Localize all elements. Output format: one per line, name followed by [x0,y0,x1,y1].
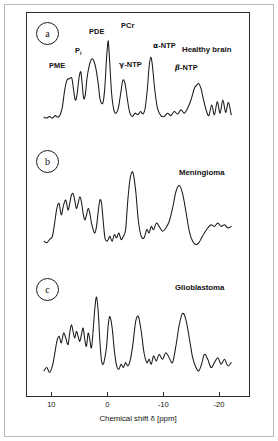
x-axis-tick [163,392,164,396]
x-axis-label: Chemical shift δ [ppm] [26,414,250,423]
figure-container: a PME Pi PDE PCr γ-NTP α-NTP β-NTP Healt… [0,0,278,441]
condition-label-b: Meningioma [179,168,224,177]
x-axis-tick [107,392,108,396]
panel-b: b Meningioma [27,141,251,269]
peak-label-beta-ntp: β-NTP [175,63,198,72]
x-axis-tick [51,392,52,396]
peak-label-alpha-ntp: α-NTP [153,41,176,50]
peak-label-gamma-ntp: γ-NTP [119,60,142,69]
plot-area: a PME Pi PDE PCr γ-NTP α-NTP β-NTP Healt… [26,12,250,396]
panel-tag-b: b [36,150,59,173]
panel-a: a PME Pi PDE PCr γ-NTP α-NTP β-NTP Healt… [27,13,251,141]
peak-label-pi: Pi [75,46,82,56]
condition-label-a: Healthy brain [182,45,231,54]
condition-label-c: Glioblastoma [175,283,224,292]
peak-label-pde: PDE [89,27,105,36]
spectrum-trace-meningioma [27,141,251,269]
x-axis-line [26,396,250,397]
x-axis-tick-label: 10 [47,400,55,409]
panel-tag-c: c [36,278,59,301]
panel-c: c Glioblastoma [27,269,251,397]
panel-tag-a: a [36,22,59,45]
x-axis-tick-label: -10 [158,400,169,409]
peak-label-pme: PME [49,61,65,70]
peak-label-pcr: PCr [121,21,134,30]
x-axis-tick [219,392,220,396]
x-axis-tick-label: -20 [214,400,225,409]
x-axis-tick-label: 0 [105,400,109,409]
x-axis: 100-10-20 [26,396,250,397]
spectrum-trace-healthy-brain [27,13,251,141]
